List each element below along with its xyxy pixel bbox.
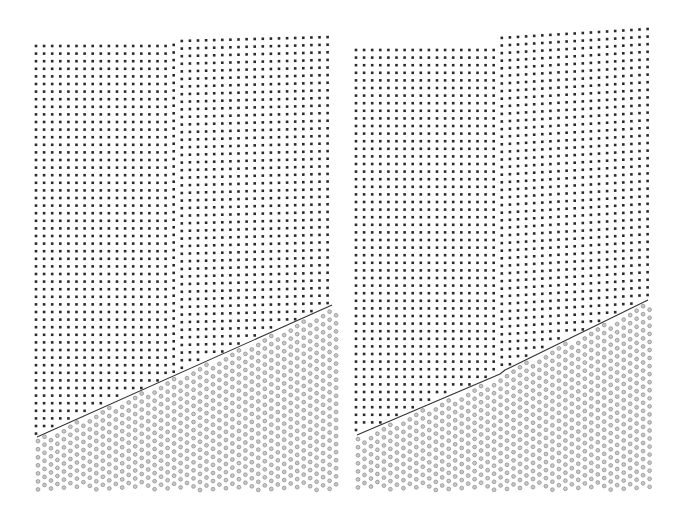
panel-left	[35, 36, 338, 492]
panel-right	[355, 28, 652, 492]
lattice-figure	[0, 0, 687, 509]
figure-canvas: Two side-by-side atomistic lattice snaps…	[0, 0, 687, 509]
